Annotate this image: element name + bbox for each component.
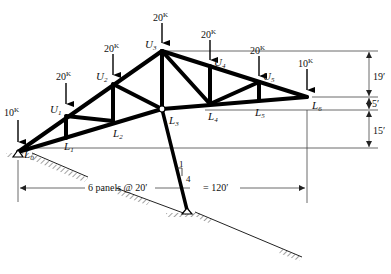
dim-15ft: 15′: [373, 125, 385, 136]
node-L3: L3: [168, 114, 179, 128]
node-L1: L1: [63, 140, 74, 154]
node-U4: U4: [214, 56, 226, 70]
load-U1: 20K: [56, 70, 71, 82]
load-U4: 20K: [201, 28, 216, 40]
truss-diagram: 1 4 10K 20K 20K 20K 20K 20K 10K L0 U1 U2…: [0, 0, 391, 274]
node-L2: L2: [112, 127, 123, 141]
slope-rise: 4: [186, 174, 191, 184]
load-L6: 10K: [298, 57, 313, 69]
node-L0: L0: [23, 148, 34, 162]
node-U1: U1: [50, 103, 61, 117]
node-U5: U5: [263, 70, 275, 84]
load-U5: 20K: [250, 44, 265, 56]
load-U3: 20K: [153, 11, 168, 23]
node-U3: U3: [145, 38, 157, 52]
dim-panels: 6 panels @ 20′: [88, 182, 147, 193]
slope-run: 1: [179, 159, 184, 169]
load-L0: 10K: [4, 106, 19, 118]
dim-19ft: 19′: [373, 71, 385, 82]
pin-support-strut: [182, 208, 192, 214]
dim-5ft: 5′: [372, 98, 379, 109]
node-L6: L6: [311, 99, 322, 113]
dim-total: = 120′: [203, 182, 228, 193]
node-L5: L5: [254, 106, 265, 120]
ground: [6, 153, 302, 261]
node-U2: U2: [96, 70, 108, 84]
load-U2: 20K: [104, 42, 119, 54]
pin-L3: [159, 106, 165, 112]
dimension-labels: 19′ 5′ 15′ 6 panels @ 20′ = 120′: [88, 71, 385, 193]
dimension-lines: [18, 51, 378, 203]
node-L4: L4: [207, 110, 218, 124]
